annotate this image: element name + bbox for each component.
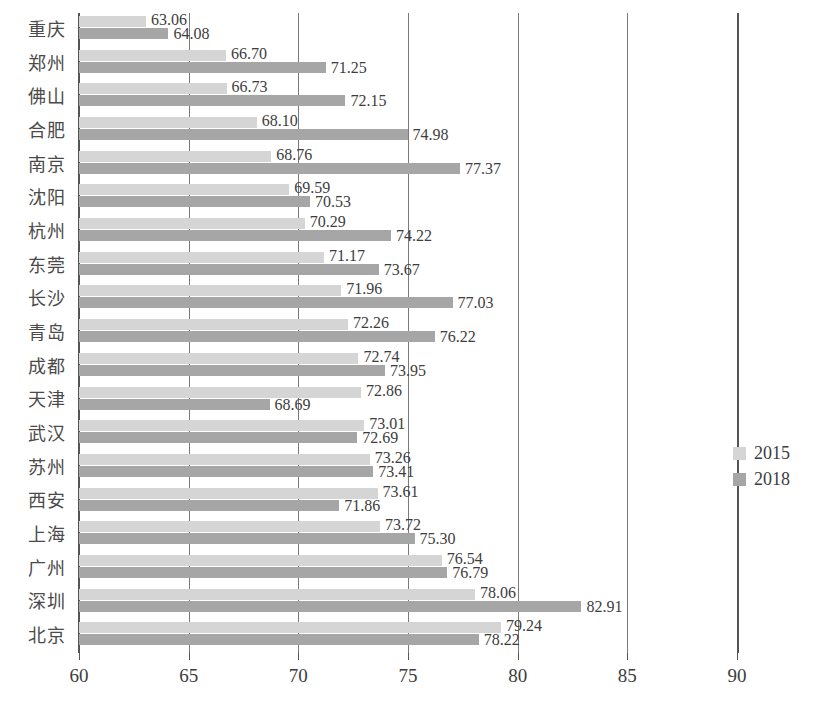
bar-2015 [79, 252, 324, 263]
bar-value-label-2015: 68.76 [276, 147, 312, 163]
bar-value-label-2018: 71.86 [344, 498, 380, 514]
bar-value-label-2018: 82.91 [586, 599, 622, 615]
chart-row: 68.1074.98 [79, 114, 737, 148]
category-label: 苏州 [0, 459, 66, 477]
gridline-90 [737, 13, 739, 653]
x-tick [189, 653, 190, 660]
bar-2015 [79, 151, 271, 162]
legend-swatch-icon [733, 473, 746, 486]
x-tick-label: 75 [399, 665, 418, 687]
bar-2015 [79, 387, 361, 398]
chart-row: 73.0172.69 [79, 417, 737, 451]
x-tick-label: 90 [728, 665, 747, 687]
chart-row: 63.0664.08 [79, 13, 737, 47]
bar-2018 [79, 601, 581, 612]
bar-2015 [79, 117, 257, 128]
category-label: 南京 [0, 156, 66, 174]
bar-2015 [79, 488, 378, 499]
x-tick-label: 60 [70, 665, 89, 687]
x-tick [79, 653, 80, 660]
legend-label: 2015 [754, 443, 790, 464]
bar-value-label-2015: 66.70 [231, 46, 267, 62]
category-axis-labels: 重庆郑州佛山合肥南京沈阳杭州东莞长沙青岛成都天津武汉苏州西安上海广州深圳北京 [0, 13, 74, 653]
bar-2018 [79, 331, 435, 342]
category-label: 杭州 [0, 223, 66, 241]
bar-value-label-2015: 73.72 [385, 517, 421, 533]
bar-value-label-2015: 73.61 [383, 484, 419, 500]
bar-value-label-2018: 68.69 [275, 397, 311, 413]
bar-2018 [79, 634, 479, 645]
chart-row: 73.6171.86 [79, 485, 737, 519]
bar-2018 [79, 365, 385, 376]
bar-2015 [79, 285, 341, 296]
bar-2015 [79, 353, 358, 364]
x-axis: 60657075808590 [79, 653, 737, 655]
bar-2018 [79, 230, 391, 241]
x-tick [408, 653, 409, 660]
category-label: 武汉 [0, 425, 66, 443]
bar-2015 [79, 83, 227, 94]
bar-value-label-2018: 70.53 [315, 194, 351, 210]
x-tick-label: 80 [508, 665, 527, 687]
category-label: 沈阳 [0, 189, 66, 207]
bar-value-label-2018: 73.95 [390, 363, 426, 379]
chart-row: 68.7677.37 [79, 148, 737, 182]
bar-value-label-2018: 77.03 [458, 295, 494, 311]
chart-row: 71.1773.67 [79, 249, 737, 283]
chart-row: 72.8668.69 [79, 384, 737, 418]
chart-row: 73.7275.30 [79, 518, 737, 552]
category-label: 佛山 [0, 88, 66, 106]
bar-2015 [79, 184, 289, 195]
bar-2018 [79, 297, 453, 308]
bar-value-label-2018: 78.22 [484, 632, 520, 648]
category-label: 重庆 [0, 21, 66, 39]
bar-2018 [79, 264, 379, 275]
bar-2018 [79, 95, 345, 106]
category-label: 合肥 [0, 122, 66, 140]
category-label: 郑州 [0, 55, 66, 73]
legend-label: 2018 [754, 469, 790, 490]
bar-value-label-2018: 73.67 [384, 262, 420, 278]
chart-row: 69.5970.53 [79, 181, 737, 215]
chart-row: 72.7473.95 [79, 350, 737, 384]
x-tick-label: 85 [618, 665, 637, 687]
bar-value-label-2015: 72.86 [366, 383, 402, 399]
bar-value-label-2015: 68.10 [262, 113, 298, 129]
bar-2018 [79, 196, 310, 207]
category-label: 成都 [0, 358, 66, 376]
bar-2015 [79, 555, 442, 566]
bar-2018 [79, 567, 447, 578]
bar-2018 [79, 129, 408, 140]
bar-value-label-2015: 72.26 [353, 315, 389, 331]
x-tick-label: 70 [289, 665, 308, 687]
bar-value-label-2018: 74.22 [396, 228, 432, 244]
chart-row: 72.2676.22 [79, 316, 737, 350]
bar-value-label-2018: 74.98 [413, 127, 449, 143]
chart-legend: 20152018 [733, 440, 813, 492]
bar-value-label-2015: 71.96 [346, 281, 382, 297]
category-label: 北京 [0, 627, 66, 645]
x-tick-label: 65 [179, 665, 198, 687]
bar-value-label-2015: 71.17 [329, 248, 365, 264]
bar-value-label-2015: 78.06 [480, 585, 516, 601]
legend-item-2015: 2015 [733, 440, 813, 466]
bar-value-label-2018: 64.08 [173, 26, 209, 42]
bar-value-label-2018: 72.15 [350, 93, 386, 109]
bar-2015 [79, 622, 501, 633]
bar-value-label-2018: 75.30 [420, 531, 456, 547]
chart-row: 73.2673.41 [79, 451, 737, 485]
bar-2015 [79, 521, 380, 532]
legend-item-2018: 2018 [733, 466, 813, 492]
category-label: 天津 [0, 391, 66, 409]
chart-row: 76.5476.79 [79, 552, 737, 586]
bar-2015 [79, 218, 305, 229]
chart-row: 79.2478.22 [79, 619, 737, 653]
bar-value-label-2018: 76.79 [452, 565, 488, 581]
bar-value-label-2018: 76.22 [440, 329, 476, 345]
category-label: 青岛 [0, 324, 66, 342]
x-tick [737, 653, 738, 660]
category-label: 广州 [0, 560, 66, 578]
category-label: 长沙 [0, 290, 66, 308]
horizontal-bar-chart: 重庆郑州佛山合肥南京沈阳杭州东莞长沙青岛成都天津武汉苏州西安上海广州深圳北京 6… [0, 0, 814, 722]
bar-2018 [79, 500, 339, 511]
